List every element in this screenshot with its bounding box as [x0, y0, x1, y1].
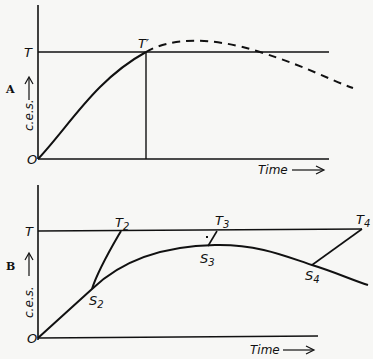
t4-label: T4	[356, 212, 370, 229]
origin-label-a: O	[27, 152, 37, 167]
solid-curve-a	[38, 52, 146, 159]
x-axis-b	[38, 336, 318, 338]
threshold-label-a: T	[24, 45, 33, 60]
right-arrow-icon	[292, 166, 324, 174]
s4-label: S4	[305, 268, 320, 285]
up-arrow-icon	[25, 77, 33, 100]
y-axis-label-a: c.e.s.	[22, 99, 36, 131]
right-arrow-icon	[283, 346, 314, 354]
panel-label-a: A	[5, 83, 15, 96]
t-prime-label: T′	[138, 36, 149, 51]
s2-t2-line	[92, 231, 121, 289]
panel-label-b: B	[6, 260, 15, 273]
x-axis-label-b: Time	[250, 343, 280, 357]
origin-label-b: O	[27, 331, 37, 346]
panel-b: T O T2 T3 T4 S2 S3 S4 B c.e.s. Time	[6, 185, 370, 357]
x-axis-label-a: Time	[258, 163, 288, 177]
t2-label: T2	[115, 215, 129, 232]
s4-t4-line	[312, 229, 362, 265]
dot-mark	[206, 236, 208, 238]
threshold-label-b: T	[25, 224, 34, 239]
s3-t3-line	[208, 231, 217, 246]
panel-a: T O T′ A c.e.s. Time	[5, 5, 353, 177]
diagram-canvas: T O T′ A c.e.s. Time T O T2 T3 T4 S2 S3	[0, 0, 373, 359]
s3-label: S3	[200, 251, 215, 268]
y-axis-label-b: c.e.s.	[22, 286, 36, 318]
threshold-line-b	[38, 229, 362, 231]
up-arrow-icon	[25, 253, 33, 276]
s2-label: S2	[89, 293, 104, 310]
t3-label: T3	[215, 213, 229, 230]
dashed-curve-a	[146, 41, 353, 88]
